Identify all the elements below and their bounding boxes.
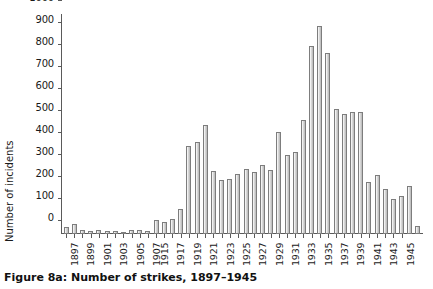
x-axis-ticks [62, 234, 422, 239]
x-axis-tick-mark [385, 234, 386, 238]
x-axis-tick-mark [213, 234, 214, 238]
x-axis-tick-label: 1925 [242, 243, 252, 266]
bar [227, 179, 232, 234]
x-axis-tick-mark [336, 234, 337, 238]
x-axis-tick-label: 1923 [226, 243, 236, 266]
x-axis-tick-mark [74, 234, 75, 238]
x-axis-tick-label: 1899 [86, 243, 96, 266]
bar [358, 112, 363, 234]
x-axis-tick-label: 1905 [136, 243, 146, 266]
x-axis-tick-mark [287, 234, 288, 238]
x-axis-tick-mark [377, 234, 378, 238]
x-axis-tick-label: 1937 [340, 243, 350, 266]
x-axis-tick-mark [295, 234, 296, 238]
x-axis-tick-mark [99, 234, 100, 238]
bar [72, 224, 77, 234]
y-axis-tick-label: 0 [48, 213, 54, 223]
x-axis-tick-mark [172, 234, 173, 238]
y-axis-ticks: 01002003004005006007008009001000 [0, 0, 62, 220]
figure-caption: Figure 8a: Number of strikes, 1897–1945 [4, 271, 257, 284]
bar [154, 220, 159, 234]
x-axis-tick-mark [393, 234, 394, 238]
bar [383, 189, 388, 234]
bar [342, 114, 347, 234]
x-axis-tick-mark [312, 234, 313, 238]
x-axis-tick-mark [123, 234, 124, 238]
bar [309, 46, 314, 234]
bar [293, 152, 298, 235]
x-axis-tick-label: 1933 [307, 243, 317, 266]
x-axis-tick-mark [189, 234, 190, 238]
y-axis-tick-label: 400 [36, 125, 55, 135]
x-axis-tick-mark [82, 234, 83, 238]
y-axis-tick-label: 200 [36, 169, 55, 179]
y-axis-tick-mark [58, 0, 62, 1]
bar [268, 170, 273, 234]
y-axis-tick-label: 800 [36, 37, 55, 47]
x-axis-tick-mark [402, 234, 403, 238]
x-axis-tick-mark [181, 234, 182, 238]
bar [366, 182, 371, 234]
x-axis-tick-label: 1921 [209, 243, 219, 266]
x-axis-tick-mark [107, 234, 108, 238]
x-axis-tick-mark [246, 234, 247, 238]
x-axis-tick-label: 1915 [160, 243, 170, 266]
x-axis-tick-mark [361, 234, 362, 238]
bar [350, 112, 355, 234]
bar [252, 172, 257, 234]
bar [415, 226, 420, 234]
x-axis-tick-label: 1931 [291, 243, 301, 266]
x-axis-tick-mark [140, 234, 141, 238]
x-axis-tick-mark [279, 234, 280, 238]
x-axis-tick-mark [303, 234, 304, 238]
x-axis-tick-mark [369, 234, 370, 238]
bar [211, 171, 216, 234]
x-axis-tick-label: 1941 [373, 243, 383, 266]
bar [178, 209, 183, 234]
x-axis-tick-label: 1919 [193, 243, 203, 266]
bar [375, 175, 380, 234]
x-axis-tick-label: 1929 [275, 243, 285, 266]
bar [235, 174, 240, 234]
figure-container: Number of incidents 01002003004005006007… [0, 0, 433, 289]
x-axis-tick-label: 1935 [324, 243, 334, 266]
x-axis-tick-mark [328, 234, 329, 238]
x-axis-tick-label: 1927 [258, 243, 268, 266]
x-axis-tick-mark [230, 234, 231, 238]
x-axis-tick-mark [320, 234, 321, 238]
x-axis-tick-mark [197, 234, 198, 238]
x-axis-tick-mark [344, 234, 345, 238]
x-axis-tick-mark [238, 234, 239, 238]
x-axis-tick-label: 1897 [70, 243, 80, 266]
x-axis-labels: 1897189919011903190519071915191719191921… [62, 240, 422, 268]
y-axis-tick-label: 900 [36, 15, 55, 25]
bar [391, 199, 396, 234]
bar [399, 196, 404, 234]
bar [276, 132, 281, 234]
bar [162, 222, 167, 234]
bar-series [62, 14, 422, 234]
x-axis-tick-mark [352, 234, 353, 238]
x-axis-tick-mark [164, 234, 165, 238]
y-axis-tick-label: 300 [36, 147, 55, 157]
x-axis-tick-mark [222, 234, 223, 238]
bar [260, 165, 265, 234]
x-axis-tick-label: 1901 [103, 243, 113, 266]
bar [195, 142, 200, 234]
bar [334, 109, 339, 234]
x-axis-tick-mark [66, 234, 67, 238]
bar [407, 186, 412, 234]
x-axis-tick-mark [115, 234, 116, 238]
x-axis-tick-mark [205, 234, 206, 238]
y-axis-tick-label: 1000 [29, 0, 54, 3]
bar [64, 227, 69, 234]
y-axis-tick-label: 600 [36, 81, 55, 91]
x-axis-tick-mark [262, 234, 263, 238]
bar [186, 146, 191, 234]
bar [317, 26, 322, 234]
bar [170, 219, 175, 234]
y-axis-tick-label: 500 [36, 103, 55, 113]
y-axis-tick-label: 700 [36, 59, 55, 69]
bar [203, 125, 208, 234]
bar [244, 169, 249, 234]
